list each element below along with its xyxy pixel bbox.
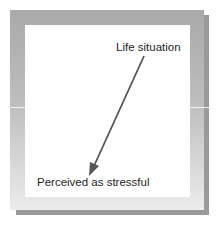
life-situation-label: Life situation — [116, 41, 181, 53]
arrow-icon — [0, 0, 218, 227]
perceived-as-stressful-label: Perceived as stressful — [37, 176, 150, 188]
